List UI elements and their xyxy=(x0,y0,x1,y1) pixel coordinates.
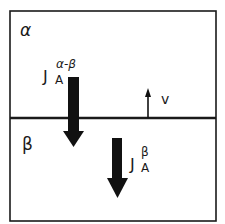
flux-arrow-beta-icon xyxy=(107,138,128,198)
velocity-label: v xyxy=(161,91,169,107)
flux-alpha-beta-superscript: α-β xyxy=(56,57,76,71)
phase-alpha-label: α xyxy=(20,20,31,40)
diagram-canvas: α β J A α-β J A β v xyxy=(0,0,225,224)
outer-frame xyxy=(10,11,216,221)
flux-arrow-alpha-beta-icon xyxy=(63,77,84,147)
velocity-arrow-up-icon xyxy=(145,88,151,118)
phase-beta-label: β xyxy=(22,134,33,154)
flux-alpha-beta-main: J xyxy=(42,67,48,86)
flux-beta-subscript: A xyxy=(141,161,150,175)
flux-alpha-beta-subscript: A xyxy=(55,73,64,87)
flux-beta-superscript: β xyxy=(141,145,149,159)
flux-beta-main: J xyxy=(129,155,135,174)
